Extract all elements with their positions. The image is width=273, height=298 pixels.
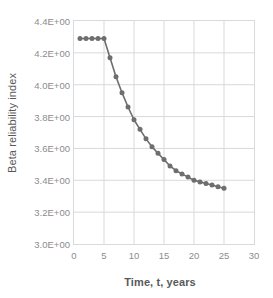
data-point-marker (78, 36, 83, 41)
data-point-marker (204, 181, 209, 186)
y-axis-tick-label: 3.8E+00 (22, 111, 70, 122)
x-axis-tick-label: 5 (101, 250, 106, 261)
x-axis-label-wrapper: Time, t, years (60, 272, 260, 290)
data-point-marker (126, 105, 131, 110)
data-point-marker (162, 157, 167, 162)
data-point-marker (156, 151, 161, 156)
x-axis-tick-label: 15 (159, 250, 170, 261)
data-point-marker (120, 90, 125, 95)
y-axis-tick-label: 3.0E+00 (22, 239, 70, 250)
chart-container: Beta reliability index 3.0E+003.2E+003.4… (0, 0, 273, 298)
data-series (78, 36, 227, 191)
data-point-marker (138, 127, 143, 132)
data-point-marker (216, 184, 221, 189)
x-axis-tick-label: 20 (189, 250, 200, 261)
y-axis-tick-label: 3.2E+00 (22, 207, 70, 218)
y-axis-tick-labels: 3.0E+003.2E+003.4E+003.6E+003.8E+004.0E+… (18, 0, 70, 298)
data-point-marker (132, 117, 137, 122)
data-point-marker (108, 55, 113, 60)
x-axis-tick-label: 0 (71, 250, 76, 261)
data-point-marker (84, 36, 89, 41)
series-line (80, 39, 224, 189)
x-axis-label: Time, t, years (124, 276, 196, 288)
y-axis-tick-label: 3.4E+00 (22, 175, 70, 186)
chart-plot-svg (74, 21, 254, 244)
data-point-marker (198, 179, 203, 184)
data-point-marker (114, 74, 119, 79)
y-axis-tick-label: 3.6E+00 (22, 143, 70, 154)
data-point-marker (168, 163, 173, 168)
data-point-marker (210, 183, 215, 188)
data-point-marker (222, 186, 227, 191)
data-point-marker (150, 144, 155, 149)
data-point-marker (90, 36, 95, 41)
data-point-marker (144, 136, 149, 141)
y-axis-tick-label: 4.0E+00 (22, 79, 70, 90)
y-axis-label: Beta reliability index (6, 73, 18, 173)
y-axis-tick-label: 4.4E+00 (22, 16, 70, 27)
x-axis-tick-label: 25 (219, 250, 230, 261)
data-point-marker (180, 171, 185, 176)
data-point-marker (192, 178, 197, 183)
data-point-marker (102, 36, 107, 41)
y-axis-tick-label: 4.2E+00 (22, 47, 70, 58)
plot-area (73, 20, 255, 245)
data-point-marker (186, 175, 191, 180)
data-point-marker (96, 36, 101, 41)
x-axis-tick-label: 10 (129, 250, 140, 261)
x-axis-tick-label: 30 (249, 250, 260, 261)
data-point-marker (174, 168, 179, 173)
gridlines (74, 21, 254, 244)
